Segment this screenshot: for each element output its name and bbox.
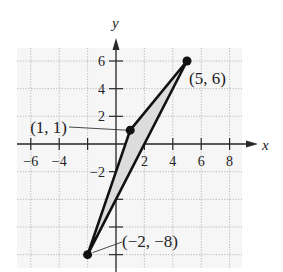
vertex-dot <box>183 57 192 66</box>
x-tick-label: −4 <box>52 154 67 169</box>
point-label: (−2, −8) <box>122 232 178 251</box>
point-label: (5, 6) <box>189 69 226 88</box>
y-axis-label: y <box>110 15 119 31</box>
x-axis-arrow-icon <box>246 141 258 148</box>
y-tick-label: 4 <box>98 82 105 97</box>
point-label: (1, 1) <box>30 118 67 137</box>
x-axis-label: x <box>261 137 269 153</box>
y-tick-label: 6 <box>98 54 105 69</box>
x-tick-label: 4 <box>169 154 176 169</box>
vertex-dot <box>83 250 92 259</box>
y-tick-label: 2 <box>98 109 105 124</box>
coordinate-plane: −6−42468642−2 (1, 1)(5, 6)(−2, −8) x y <box>0 0 283 272</box>
vertex-dot <box>126 126 135 135</box>
x-tick-label: −6 <box>23 154 38 169</box>
x-tick-label: 8 <box>226 154 233 169</box>
x-tick-label: 6 <box>198 154 205 169</box>
y-axis-arrow-icon <box>113 38 120 50</box>
x-tick-label: 2 <box>141 154 148 169</box>
y-tick-label: −2 <box>90 165 105 180</box>
